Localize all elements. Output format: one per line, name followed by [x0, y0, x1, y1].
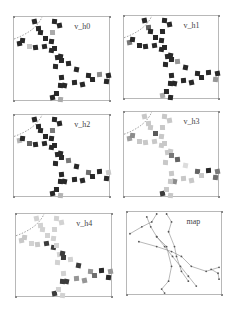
data-square [59, 155, 64, 160]
data-square [141, 114, 147, 120]
frame-corner [15, 213, 17, 215]
data-square [38, 30, 43, 35]
data-square [20, 38, 26, 44]
data-square [80, 82, 86, 88]
data-square [104, 175, 109, 180]
data-square [168, 153, 173, 158]
data-square [206, 70, 211, 75]
data-square [54, 91, 59, 96]
data-square [22, 234, 28, 240]
panel-v-h3: v_h3 [123, 111, 219, 197]
data-square [181, 78, 186, 83]
frame-corner [123, 98, 125, 100]
data-square [55, 260, 60, 265]
data-square [130, 133, 136, 139]
data-square [59, 75, 64, 80]
data-square [51, 235, 57, 241]
frame-corner [111, 213, 113, 215]
data-square [99, 268, 104, 273]
data-square [44, 240, 50, 246]
data-square [52, 143, 57, 148]
data-square [153, 131, 158, 136]
data-square [151, 42, 157, 48]
data-square [59, 171, 64, 176]
data-square [167, 193, 173, 199]
data-square [58, 179, 63, 184]
data-square [168, 56, 173, 61]
data-square [56, 287, 61, 292]
data-square [57, 23, 63, 29]
data-square [45, 233, 50, 238]
frame-corner [109, 16, 111, 18]
data-square [148, 125, 153, 130]
data-square [148, 29, 153, 34]
data-square [199, 173, 204, 178]
data-square [32, 19, 38, 25]
frame-corner [13, 114, 15, 116]
data-square [49, 39, 55, 45]
frame-corner [111, 296, 113, 298]
frame-corner [13, 16, 15, 18]
data-square [164, 187, 169, 192]
data-square [59, 58, 64, 63]
data-square [106, 73, 112, 79]
data-square [106, 275, 111, 280]
data-square [168, 170, 173, 175]
data-square [74, 163, 80, 169]
data-square [141, 18, 147, 24]
data-square [43, 134, 48, 139]
data-square [160, 29, 165, 34]
panel-v-h1: v_h1 [123, 15, 219, 99]
data-square [35, 241, 41, 247]
data-square [60, 293, 66, 299]
data-square [137, 43, 142, 48]
frame-corner [218, 111, 220, 113]
data-square [137, 139, 142, 144]
data-square [74, 67, 80, 73]
data-square [57, 120, 63, 126]
data-square [162, 62, 167, 67]
data-square [50, 30, 55, 35]
frame-corner [218, 98, 220, 100]
data-square [158, 134, 164, 140]
data-square [164, 89, 169, 94]
data-square [213, 77, 218, 82]
data-square [166, 21, 172, 27]
data-square [54, 243, 59, 248]
data-square [61, 271, 66, 276]
frame-corner [218, 196, 220, 198]
frame-corner [15, 296, 17, 298]
data-square [106, 169, 112, 175]
data-square [162, 141, 167, 146]
data-square [181, 176, 186, 181]
data-square [74, 276, 79, 281]
data-square [66, 158, 71, 163]
data-square [72, 176, 77, 181]
data-square [27, 44, 32, 49]
data-square [166, 118, 172, 124]
data-square [213, 174, 218, 179]
data-square [52, 227, 57, 232]
data-square [162, 45, 167, 50]
data-square [92, 273, 97, 278]
frame-corner [126, 211, 128, 213]
data-square [60, 279, 65, 284]
data-square [167, 81, 172, 86]
data-square [54, 187, 59, 192]
frame-corner [13, 196, 15, 198]
data-square [43, 36, 48, 41]
data-square [90, 77, 95, 82]
data-square [167, 95, 173, 101]
data-square [153, 35, 158, 40]
data-square [97, 169, 102, 174]
data-square [58, 97, 64, 103]
data-square [38, 127, 43, 132]
data-square [59, 219, 65, 225]
data-square [53, 64, 58, 69]
data-square [160, 125, 165, 130]
frame-corner [109, 196, 111, 198]
data-square [53, 161, 58, 166]
data-square [27, 141, 32, 146]
data-square [58, 83, 63, 88]
data-square [167, 179, 172, 184]
